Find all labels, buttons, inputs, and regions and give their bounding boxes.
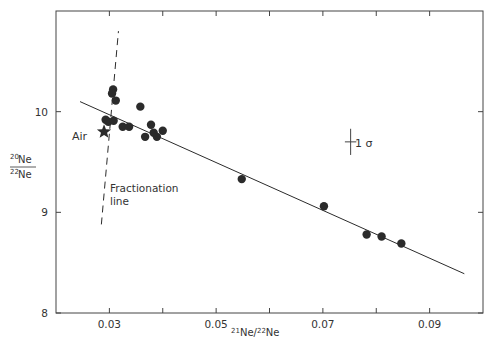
fractionation-label-line1: Fractionation	[110, 182, 178, 194]
data-point	[159, 127, 167, 135]
data-point	[109, 117, 117, 125]
data-point	[320, 202, 328, 210]
data-points	[97, 85, 406, 247]
data-point	[136, 102, 144, 110]
x-axis-label: 21Ne/22Ne	[231, 327, 280, 338]
y-tick-label: 8	[41, 307, 48, 319]
y-tick-label: 9	[41, 206, 48, 218]
y-label-num: Ne	[18, 154, 32, 165]
data-point	[147, 121, 155, 129]
scatter-chart: 0.030.050.070.098910 Air Fractionation l…	[0, 0, 491, 348]
data-point	[397, 239, 405, 247]
y-axis-label: 20 Ne 22 Ne	[10, 153, 36, 180]
data-point	[377, 232, 385, 240]
x-label-den: Ne	[266, 327, 280, 338]
x-tick-label: 0.03	[98, 318, 121, 330]
x-tick-label: 0.09	[418, 318, 441, 330]
y-tick-label: 10	[35, 106, 48, 118]
axis-ticks: 0.030.050.070.098910	[35, 11, 483, 330]
data-point	[112, 96, 120, 104]
data-point	[153, 133, 161, 141]
y-label-den: Ne	[18, 169, 32, 180]
data-point	[141, 133, 149, 141]
data-point	[362, 230, 370, 238]
sigma-label: 1 σ	[355, 137, 372, 150]
svg-text:21Ne/22Ne: 21Ne/22Ne	[231, 327, 280, 338]
air-label: Air	[72, 130, 88, 143]
fit-lines	[80, 31, 464, 274]
x-tick-label: 0.07	[311, 318, 334, 330]
x-tick-label: 0.05	[204, 318, 227, 330]
plot-frame	[56, 11, 483, 313]
data-point	[125, 123, 133, 131]
data-point	[238, 175, 246, 183]
x-label-num-sup: 21	[231, 327, 240, 335]
x-label-den-sup: 22	[257, 327, 266, 335]
x-label-num: Ne/	[240, 327, 258, 338]
fractionation-label-line2: line	[110, 195, 129, 207]
plot-border	[56, 11, 483, 313]
